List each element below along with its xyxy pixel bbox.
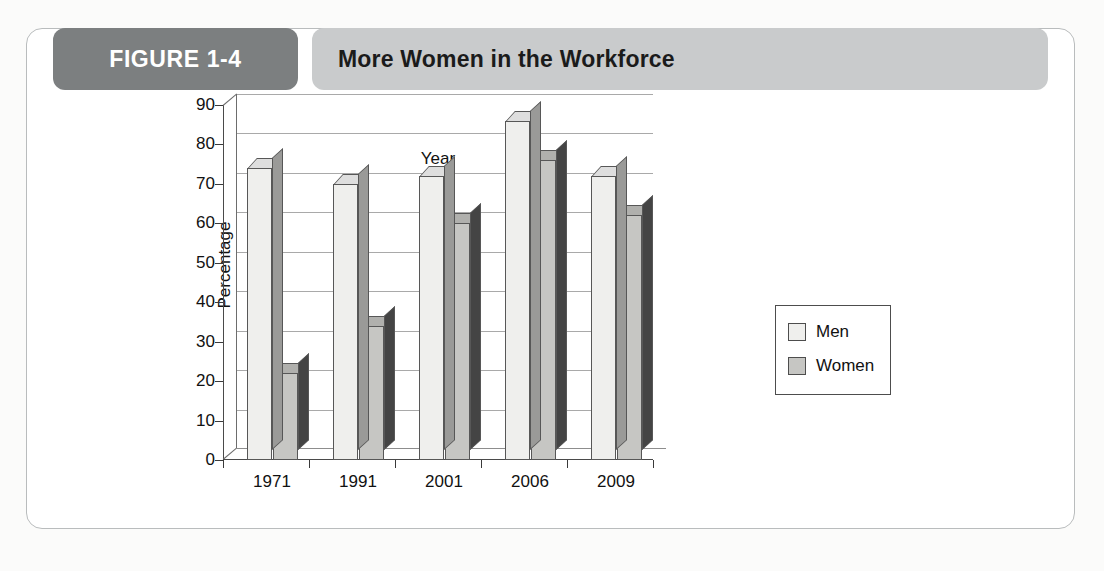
legend-swatch-men bbox=[788, 323, 806, 341]
figure-title: More Women in the Workforce bbox=[312, 46, 675, 73]
y-tick-mark bbox=[215, 144, 223, 145]
bar-side-face bbox=[616, 156, 627, 450]
y-tick-mark bbox=[215, 184, 223, 185]
y-tick-mark bbox=[215, 302, 223, 303]
x-tick-label: 2001 bbox=[425, 472, 463, 492]
y-tick-mark bbox=[215, 460, 223, 461]
bar-front-face bbox=[419, 176, 444, 460]
x-tick-mark bbox=[395, 460, 396, 468]
y-axis-labels: 0102030405060708090 bbox=[173, 105, 215, 460]
bar-men-2009 bbox=[591, 176, 616, 460]
x-tick-label: 2009 bbox=[597, 472, 635, 492]
bar-front-face bbox=[505, 121, 530, 460]
y-tick-label: 80 bbox=[173, 134, 215, 154]
bar-front-face bbox=[333, 184, 358, 460]
y-tick-label: 10 bbox=[173, 411, 215, 431]
y-tick-mark bbox=[215, 263, 223, 264]
legend-item-women: Women bbox=[788, 356, 874, 376]
x-tick-mark bbox=[481, 460, 482, 468]
figure-number-tab: FIGURE 1-4 bbox=[53, 28, 298, 90]
bar-front-face bbox=[591, 176, 616, 460]
bar-side-face bbox=[298, 353, 309, 450]
bar-front-face bbox=[247, 168, 272, 460]
y-tick-mark bbox=[215, 223, 223, 224]
bar-side-face bbox=[358, 164, 369, 450]
y-tick-label: 60 bbox=[173, 213, 215, 233]
bar-men-1991 bbox=[333, 184, 358, 460]
figure-number-label: FIGURE 1-4 bbox=[109, 46, 242, 73]
y-tick-label: 20 bbox=[173, 371, 215, 391]
legend-item-men: Men bbox=[788, 322, 849, 342]
x-tick-mark bbox=[309, 460, 310, 468]
x-axis-labels: 19711991200120062009 bbox=[223, 460, 653, 494]
bar-side-face bbox=[530, 101, 541, 450]
bar-men-2001 bbox=[419, 176, 444, 460]
gridline bbox=[236, 94, 653, 95]
bar-side-face bbox=[642, 196, 653, 450]
x-tick-mark bbox=[567, 460, 568, 468]
x-tick-label: 2006 bbox=[511, 472, 549, 492]
y-tick-label: 90 bbox=[173, 95, 215, 115]
y-tick-mark bbox=[215, 342, 223, 343]
figure-header: FIGURE 1-4 More Women in the Workforce bbox=[27, 29, 1074, 91]
chart-legend: Men Women bbox=[775, 305, 891, 395]
bar-side-face bbox=[384, 306, 395, 450]
figure-page: FIGURE 1-4 More Women in the Workforce P… bbox=[0, 0, 1104, 571]
y-tick-label: 70 bbox=[173, 174, 215, 194]
y-tick-label: 30 bbox=[173, 332, 215, 352]
y-tick-label: 40 bbox=[173, 292, 215, 312]
figure-card: FIGURE 1-4 More Women in the Workforce P… bbox=[26, 28, 1075, 529]
x-tick-label: 1971 bbox=[253, 472, 291, 492]
y-tick-label: 50 bbox=[173, 253, 215, 273]
bar-men-2006 bbox=[505, 121, 530, 460]
y-tick-label: 0 bbox=[173, 450, 215, 470]
x-tick-label: 1991 bbox=[339, 472, 377, 492]
bar-men-1971 bbox=[247, 168, 272, 460]
y-tick-mark bbox=[215, 421, 223, 422]
bar-side-face bbox=[272, 148, 283, 450]
plot-area: Percentage 0102030405060708090 197119912… bbox=[223, 105, 653, 460]
bar-side-face bbox=[444, 156, 455, 450]
chart-area: Percentage 0102030405060708090 197119912… bbox=[27, 91, 1074, 530]
legend-swatch-women bbox=[788, 357, 806, 375]
y-tick-mark bbox=[215, 381, 223, 382]
bar-side-face bbox=[556, 140, 567, 450]
x-tick-mark bbox=[653, 460, 654, 468]
x-tick-mark bbox=[223, 460, 224, 468]
legend-label-women: Women bbox=[816, 356, 874, 376]
legend-label-men: Men bbox=[816, 322, 849, 342]
bar-side-face bbox=[470, 203, 481, 450]
figure-title-band: More Women in the Workforce bbox=[312, 28, 1048, 90]
y-tick-mark bbox=[215, 105, 223, 106]
